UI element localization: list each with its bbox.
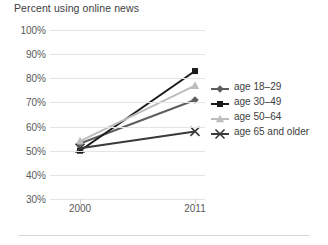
legend-item-label: age 50–64 [234,111,281,123]
square-marker [192,68,198,74]
series-line [80,86,195,142]
plot-lines-svg [50,30,205,199]
y-axis-tick-label: 40% [26,169,46,180]
legend-item[interactable]: age 18–29 [210,79,326,94]
y-axis-tick-label: 30% [26,194,46,205]
legend-item-label: age 18–29 [234,81,281,93]
gridline [50,151,205,152]
legend-item[interactable]: age 50–64 [210,109,326,124]
series-line [80,100,195,143]
y-axis-labels: 100%90%80%70%60%50%40%30% [8,30,46,199]
square-legend-icon [210,96,230,108]
y-axis-tick-label: 70% [26,97,46,108]
square-marker [217,101,223,107]
legend-item[interactable]: age 65 and older [210,124,326,139]
x-axis-labels: 20002011 [50,203,205,221]
online-news-line-chart: Percent using online news 100%90%80%70%6… [0,0,328,245]
footer-divider [18,235,310,236]
legend-item-label: age 65 and older [234,126,309,138]
x-axis-tick-label: 2000 [69,203,91,214]
chart-legend: age 18–29age 30–49age 50–64age 65 and ol… [210,79,326,139]
y-axis-tick-label: 60% [26,121,46,132]
y-axis-tick-label: 50% [26,145,46,156]
gridline [50,78,205,79]
y-axis-tick-label: 100% [20,25,46,36]
triangle-marker [191,81,199,89]
legend-item[interactable]: age 30–49 [210,94,326,109]
legend-item-label: age 30–49 [234,96,281,108]
gridline [50,30,205,31]
chart-title: Percent using online news [14,2,139,14]
series-line [80,71,195,151]
gridline [50,102,205,103]
gridline [50,127,205,128]
y-axis-tick-label: 90% [26,49,46,60]
x-axis-tick-label: 2011 [184,203,206,214]
plot-area [50,30,205,199]
diamond-legend-icon [210,81,230,93]
gridline [50,175,205,176]
x-legend-icon [210,126,230,138]
diamond-marker [216,85,224,93]
gridline [50,54,205,55]
triangle-legend-icon [210,111,230,123]
y-axis-tick-label: 80% [26,73,46,84]
